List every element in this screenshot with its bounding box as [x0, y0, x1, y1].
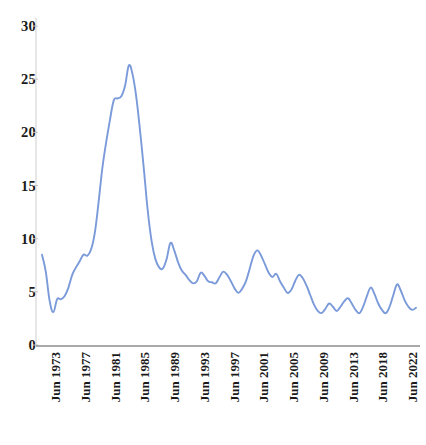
x-axis-tick-label: Jun 2009 [317, 352, 330, 402]
x-axis-tick-label: Jun 1989 [168, 352, 181, 402]
x-axis-tick-label: Jun 2005 [287, 352, 300, 402]
x-axis-tick-label: Jun 2018 [376, 352, 389, 402]
x-axis-tick-label: Jun 1985 [138, 352, 151, 402]
x-axis-tick-label: Jun 2013 [347, 352, 360, 402]
x-axis-tick-label: Jun 1997 [228, 352, 241, 402]
line-chart: 051015202530 Jun 1973Jun 1977Jun 1981Jun… [0, 0, 426, 445]
x-axis-tick-labels: Jun 1973Jun 1977Jun 1981Jun 1985Jun 1989… [0, 0, 426, 445]
x-axis-tick-label: Jun 1977 [79, 352, 92, 402]
x-axis-tick-label: Jun 2001 [257, 352, 270, 402]
x-axis-tick-label: Jun 1993 [198, 352, 211, 402]
x-axis-tick-label: Jun 1981 [109, 352, 122, 402]
x-axis-tick-label: Jun 1973 [49, 352, 62, 402]
x-axis-tick-label: Jun 2022 [406, 352, 419, 402]
